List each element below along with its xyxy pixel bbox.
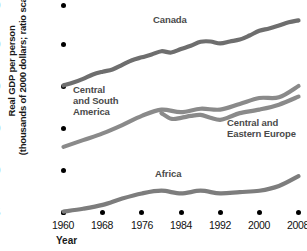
series-line-africa bbox=[64, 176, 299, 211]
plot-area bbox=[0, 0, 307, 251]
series-line-canada bbox=[64, 20, 299, 85]
gdp-per-person-line-chart: Real GDP per person (thousands of 2000 d… bbox=[0, 0, 307, 251]
